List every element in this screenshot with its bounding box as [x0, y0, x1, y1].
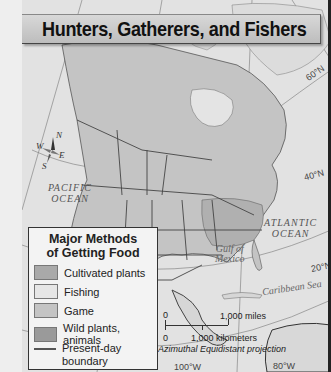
scale-zero-miles: 0 — [163, 310, 168, 320]
longitude-80w: 80°W — [273, 361, 295, 371]
pacific-ocean-label: PACIFIC OCEAN — [48, 182, 92, 204]
left-margin — [0, 0, 23, 372]
scale-tick-zero — [165, 320, 166, 330]
boundary-line-swatch — [34, 348, 56, 350]
legend: Major Methods of Getting Food Cultivated… — [28, 227, 158, 370]
compass-e: E — [59, 150, 65, 160]
scale-bar — [165, 325, 228, 326]
scale-tick-km — [202, 325, 203, 330]
gulf-of-mexico-label: Gulf of Mexico — [215, 244, 244, 264]
legend-item-fishing: Fishing — [34, 284, 99, 299]
longitude-100w: 100°W — [174, 362, 201, 372]
scale-tick-miles — [228, 319, 229, 325]
swatch-fishing — [34, 284, 58, 299]
compass-n: N — [56, 130, 62, 140]
legend-item-cultivated-plants: Cultivated plants — [34, 265, 145, 280]
swatch-game — [34, 303, 58, 318]
projection-label: Azimuthal Equidistant projection — [158, 344, 286, 354]
scale-zero-km: 0 — [163, 333, 168, 343]
compass-w: W — [36, 141, 44, 151]
legend-item-game: Game — [34, 303, 94, 318]
compass-rose: N W E S — [33, 133, 67, 171]
scale-km-label: 1,000 kilometers — [191, 333, 257, 343]
map-figure: Hunters, Gatherers, and Fishers PACIFIC … — [0, 0, 331, 372]
legend-item-boundary: Present-day boundary — [34, 342, 121, 368]
legend-title: Major Methods of Getting Food — [29, 232, 157, 260]
swatch-cultivated-plants — [34, 265, 58, 280]
title-banner: Hunters, Gatherers, and Fishers — [22, 14, 321, 44]
atlantic-ocean-label: ATLANTIC OCEAN — [264, 217, 317, 239]
scale-miles-label: 1,000 miles — [220, 311, 266, 321]
swatch-wild-plants-animals — [34, 327, 57, 342]
compass-s: S — [42, 161, 47, 171]
map-title: Hunters, Gatherers, and Fishers — [42, 17, 306, 41]
